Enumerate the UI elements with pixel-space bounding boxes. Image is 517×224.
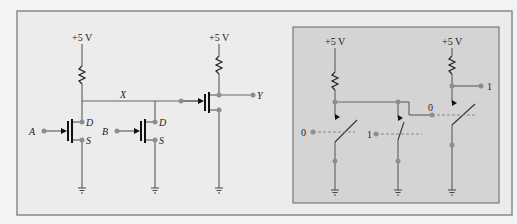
panel-output-label: 1 (487, 81, 492, 92)
source-b-label: S (159, 135, 164, 146)
source-a-label: S (86, 135, 91, 146)
supply-label-2: +5 V (209, 32, 230, 43)
switch-1-input-label: 0 (301, 127, 306, 138)
switch-3-input-label: 0 (428, 102, 433, 113)
drain-a-label: D (85, 117, 94, 128)
circuit-diagram: +5 V +5 V X A B Y D S D S (0, 0, 517, 224)
drain-b-label: D (158, 117, 167, 128)
panel-supply-label-1: +5 V (325, 36, 346, 47)
input-a-label: A (28, 126, 36, 137)
switch-2-input-label: 1 (367, 129, 372, 140)
node-x-label: X (119, 89, 127, 100)
input-b-label: B (102, 126, 108, 137)
supply-label-1: +5 V (72, 32, 93, 43)
panel-supply-label-2: +5 V (442, 36, 463, 47)
